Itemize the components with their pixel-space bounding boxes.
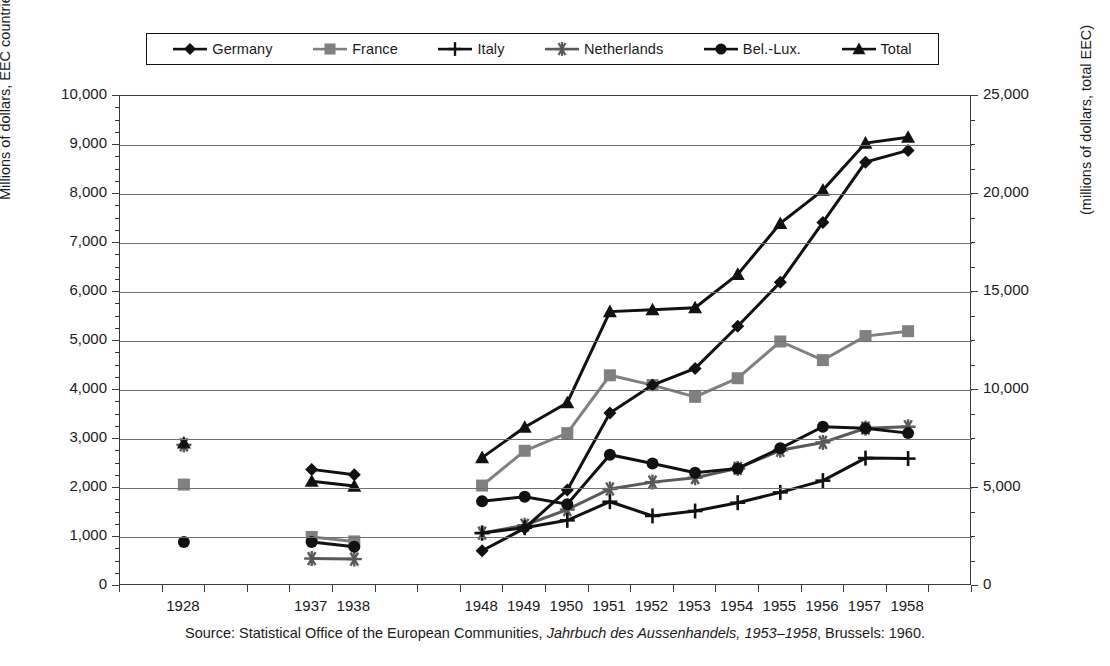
series-line [482,331,908,485]
chart-figure: GermanyFranceItalyNetherlandsBel.-Lux.To… [0,0,1110,666]
data-point [604,369,616,381]
data-point [901,451,916,466]
y-axis-left-tick-label: 2,000 [23,477,107,494]
y-axis-right-tick-label: 20,000 [983,183,1073,200]
data-point [177,436,191,449]
series-italy [475,451,916,541]
y-axis-right-tick-label: 10,000 [983,379,1073,396]
x-axis-tick [801,585,802,592]
data-point [561,427,573,439]
y-axis-left-tick-label: 9,000 [23,134,107,151]
y-axis-left-minor-tick [115,279,119,280]
gridline [120,488,972,489]
y-axis-left-tick [112,242,119,243]
y-axis-right-minor-tick [971,169,975,170]
gridline [120,145,972,146]
legend-marker-asterisk-icon [545,41,579,57]
legend-item-netherlands: Netherlands [545,41,663,57]
y-axis-left-tick-label: 5,000 [23,330,107,347]
data-point [688,504,703,519]
x-axis-tick-label: 1938 [323,597,383,614]
y-axis-left-tick [112,389,119,390]
gridline [120,537,972,538]
x-axis-tick [417,585,418,592]
data-point [476,495,488,507]
data-point [732,462,744,474]
x-axis-tick [119,585,120,592]
legend-marker-square-icon [313,41,347,57]
y-axis-right-minor-tick [971,512,975,513]
y-axis-left-tick-label: 8,000 [23,183,107,200]
y-axis-left-minor-tick [115,573,119,574]
chart-legend: GermanyFranceItalyNetherlandsBel.-Lux.To… [146,33,939,65]
gridline [120,390,972,391]
legend-item-label: Italy [477,41,504,57]
gridline [120,243,972,244]
legend-item-label: France [352,41,398,57]
series-line [312,542,355,547]
y-axis-right-minor-tick [971,267,975,268]
data-point [645,508,660,523]
gridline [120,439,972,440]
legend-item-italy: Italy [438,41,504,57]
data-point [817,421,829,433]
y-axis-left-minor-tick [115,512,119,513]
y-axis-left-tick [112,585,119,586]
legend-item-label: Total [881,41,912,57]
y-axis-right-minor-tick [971,365,975,366]
y-axis-left-tick [112,487,119,488]
data-point [647,458,659,470]
y-axis-left-tick [112,193,119,194]
y-axis-left-tick [112,144,119,145]
gridline [120,194,972,195]
y-axis-left-minor-tick [115,414,119,415]
x-axis-tick [971,585,972,592]
y-axis-left-minor-tick [115,352,119,353]
y-axis-right-minor-tick [971,438,975,439]
source-prefix: Source: Statistical Office of the Europe… [185,625,547,641]
y-axis-left-minor-tick [115,230,119,231]
source-note: Source: Statistical Office of the Europe… [0,625,1110,641]
legend-item-label: Netherlands [584,41,663,57]
y-axis-right-tick [971,193,978,194]
series-line [312,481,355,486]
y-axis-left-minor-tick [115,426,119,427]
data-point [858,451,873,466]
x-axis-tick [375,585,376,592]
data-point [476,480,488,492]
y-axis-left-minor-tick [115,450,119,451]
data-point [347,552,362,567]
y-axis-right-minor-tick [971,561,975,562]
y-axis-left-tick-label: 1,000 [23,526,107,543]
y-axis-left-minor-tick [115,205,119,206]
y-axis-left-tick-label: 4,000 [23,379,107,396]
y-axis-left-minor-tick [115,156,119,157]
data-point [774,442,786,454]
series-line [482,137,908,457]
x-axis-tick-label: 1928 [153,597,213,614]
y-axis-left-minor-tick [115,328,119,329]
series-line [482,150,908,550]
y-axis-right-minor-tick [971,536,975,537]
y-axis-left-minor-tick [115,475,119,476]
y-axis-right-tick-label: 5,000 [983,477,1073,494]
legend-item-total: Total [842,41,912,57]
data-point [860,422,872,434]
y-axis-left-minor-tick [115,218,119,219]
data-point [689,391,701,403]
y-axis-left-tick-label: 7,000 [23,232,107,249]
data-point [689,467,701,479]
y-axis-left-minor-tick [115,377,119,378]
series-line [312,469,355,474]
data-point [602,494,617,509]
plot-area [119,95,971,585]
y-axis-right-minor-tick [971,218,975,219]
y-axis-right-tick [971,487,978,488]
legend-item-germany: Germany [173,41,272,57]
y-axis-right-tick-label: 15,000 [983,281,1073,298]
y-axis-left-tick [112,438,119,439]
y-axis-right-minor-tick [971,144,975,145]
y-axis-right-tick [971,95,978,96]
y-axis-left-minor-tick [115,107,119,108]
y-axis-left-minor-tick [115,316,119,317]
